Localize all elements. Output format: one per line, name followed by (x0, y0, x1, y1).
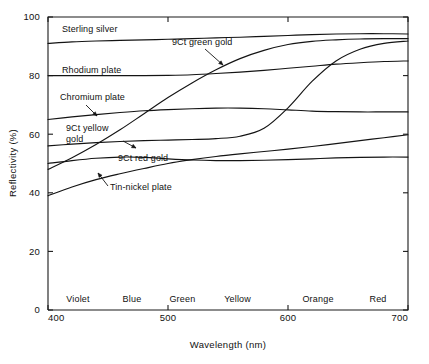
reflectivity-chart-figure: 020406080100400500600700 VioletBlueGreen… (0, 0, 429, 364)
series-label-9ct-green-gold: 9Ct green gold (172, 37, 232, 47)
y-tick-label-0: 0 (35, 304, 40, 315)
series-label-chromium-plate: Chromium plate (60, 92, 125, 102)
band-label-red: Red (369, 294, 386, 304)
axis-ticks (48, 17, 408, 310)
reflectivity-line-chart: 020406080100400500600700 VioletBlueGreen… (0, 0, 429, 364)
arrowhead-icon-9ct-yellow-gold (131, 144, 136, 148)
band-label-green: Green (169, 294, 195, 304)
series-label-tin-nickel-plate: Tin-nickel plate (110, 182, 172, 192)
x-tick-label-500: 500 (160, 312, 176, 323)
x-axis-title: Wavelength (nm) (190, 339, 266, 350)
series-label-sterling-silver: Sterling silver (62, 24, 118, 34)
y-tick-label-60: 60 (29, 129, 40, 140)
spectral-band-labels: VioletBlueGreenYellowOrangeRed (66, 294, 386, 304)
x-tick-label-400: 400 (48, 312, 64, 323)
band-label-blue: Blue (123, 294, 142, 304)
y-tick-label-40: 40 (29, 187, 40, 198)
band-label-yellow: Yellow (224, 294, 251, 304)
curve-tin-nickel-plate (48, 135, 408, 196)
band-label-orange: Orange (302, 294, 333, 304)
y-tick-label-80: 80 (29, 70, 40, 81)
y-axis-title: Reflectivity (%) (7, 129, 18, 197)
curve-9ct-green-gold (48, 39, 408, 170)
curve-chromium-plate (48, 108, 408, 120)
curve-9ct-red-gold (48, 157, 408, 164)
series-label-rhodium-plate: Rhodium plate (62, 65, 121, 75)
y-tick-label-100: 100 (24, 11, 40, 22)
band-label-violet: Violet (66, 294, 90, 304)
plot-frame (48, 17, 408, 310)
x-tick-label-700: 700 (392, 312, 408, 323)
x-tick-label-600: 600 (280, 312, 296, 323)
data-curves (48, 34, 408, 196)
y-tick-label-20: 20 (29, 246, 40, 257)
series-label-9ct-red-gold: 9Ct red gold (118, 153, 168, 163)
